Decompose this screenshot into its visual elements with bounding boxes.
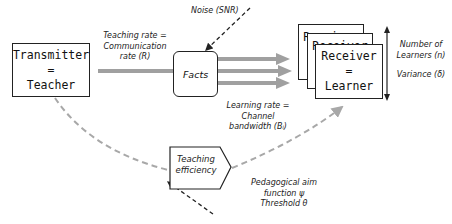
facts-label: Facts [183, 67, 208, 82]
number-learners-label: Number of Learners (n) [393, 40, 449, 61]
receiver-line1: Receiver [321, 49, 376, 64]
transmitter-node: Transmitter = Teacher [12, 43, 90, 97]
teaching-rate-label: Teaching rate = Communication rate (R) [100, 31, 170, 63]
facts-node: Facts [173, 51, 218, 97]
learning-arrows [218, 53, 292, 89]
transmitter-line2: = [48, 63, 55, 78]
pedagogical-label: Pedagogical aim function ψ Threshold θ [248, 178, 320, 210]
learning-rate-label: Learning rate = Channel bandwidth (Bᵢ) [222, 101, 294, 133]
efficiency-line1: Teaching [170, 154, 222, 165]
transmitter-line1: Transmitter [13, 48, 89, 63]
receiver-line2: = [346, 64, 353, 79]
cropped-title-text [0, 0, 452, 3]
variance-label: Variance (δ) [393, 70, 449, 81]
receiver-line3: Learner [325, 79, 373, 94]
receiver-node: Receiver = Learner [315, 44, 383, 99]
efficiency-node: Teaching efficiency [170, 154, 222, 176]
transmitter-line3: Teacher [27, 78, 75, 93]
noise-label: Noise (SNR) [191, 6, 239, 17]
teacher-to-efficiency [55, 98, 168, 170]
efficiency-line2: efficiency [170, 165, 222, 176]
